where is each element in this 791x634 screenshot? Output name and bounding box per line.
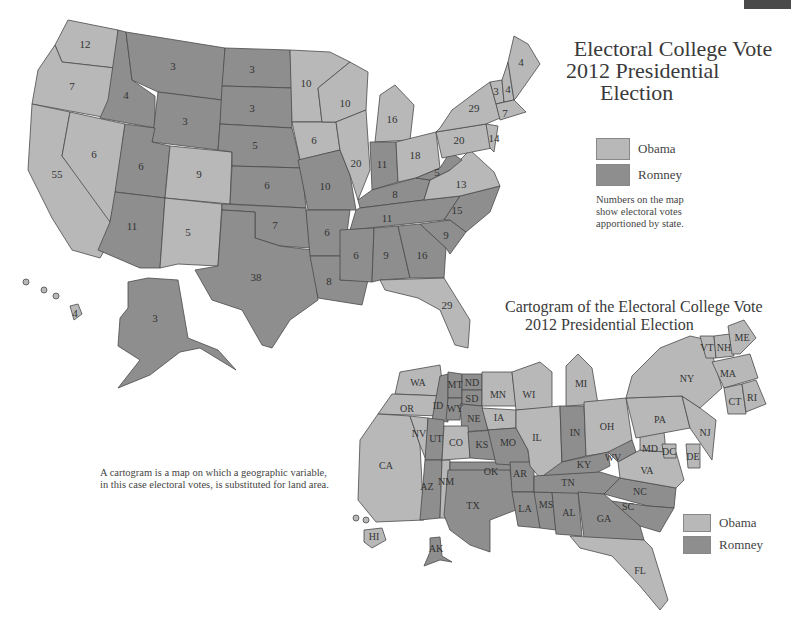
svg-text:RI: RI	[747, 392, 757, 403]
svg-text:NY: NY	[680, 373, 694, 384]
svg-text:TN: TN	[561, 477, 574, 488]
svg-text:MI: MI	[575, 378, 587, 389]
note-line: A cartogram is a map on which a geograph…	[100, 467, 340, 479]
svg-text:PA: PA	[654, 414, 667, 425]
svg-text:WA: WA	[410, 377, 426, 388]
svg-text:SC: SC	[622, 501, 635, 512]
svg-text:MN: MN	[490, 389, 506, 400]
svg-text:TX: TX	[466, 500, 480, 511]
svg-text:ME: ME	[735, 332, 750, 343]
legend-label: Romney	[719, 537, 763, 553]
svg-text:ID: ID	[433, 400, 444, 411]
svg-text:AZ: AZ	[420, 481, 433, 492]
svg-text:LA: LA	[518, 503, 532, 514]
svg-text:WV: WV	[605, 452, 622, 463]
svg-text:MA: MA	[720, 368, 737, 379]
svg-text:IL: IL	[532, 432, 541, 443]
note-line: in this case electoral votes, is substit…	[100, 479, 340, 491]
svg-text:NH: NH	[717, 342, 731, 353]
svg-text:OK: OK	[484, 466, 499, 477]
svg-text:IA: IA	[494, 412, 505, 423]
svg-text:CO: CO	[449, 437, 463, 448]
svg-text:KY: KY	[577, 459, 591, 470]
svg-text:WI: WI	[523, 389, 536, 400]
svg-text:CA: CA	[379, 460, 394, 471]
svg-text:DC: DC	[662, 446, 676, 457]
svg-text:VA: VA	[640, 465, 654, 476]
svg-text:MD: MD	[642, 443, 658, 454]
cartogram-map: WA OR CA NV ID MT ND SD WY NE UT CO AZ N…	[0, 0, 791, 634]
svg-text:UT: UT	[429, 433, 442, 444]
legend-item-obama: Obama	[683, 512, 763, 534]
carto-wi	[512, 362, 552, 410]
svg-text:HI: HI	[369, 531, 380, 542]
romney-swatch	[683, 536, 711, 554]
legend-label: Obama	[719, 515, 757, 531]
cartogram-note: A cartogram is a map on which a geograph…	[100, 467, 340, 491]
svg-text:MT: MT	[448, 379, 463, 390]
carto-tx	[444, 470, 516, 552]
svg-text:NM: NM	[438, 476, 454, 487]
svg-text:AL: AL	[562, 507, 575, 518]
svg-text:IN: IN	[570, 427, 581, 438]
svg-text:AK: AK	[429, 543, 444, 554]
svg-text:NV: NV	[412, 428, 427, 439]
svg-text:VT: VT	[700, 342, 713, 353]
svg-text:OH: OH	[600, 421, 614, 432]
svg-text:DE: DE	[686, 451, 699, 462]
svg-text:NC: NC	[633, 486, 647, 497]
obama-swatch	[683, 514, 711, 532]
legend-item-romney: Romney	[683, 534, 763, 556]
svg-text:WY: WY	[447, 403, 464, 414]
svg-text:SD: SD	[466, 393, 479, 404]
svg-text:KS: KS	[476, 439, 489, 450]
cartogram-legend: Obama Romney	[683, 512, 763, 556]
svg-text:NE: NE	[467, 413, 480, 424]
carto-fl	[570, 536, 668, 610]
svg-text:MS: MS	[539, 499, 553, 510]
svg-text:ND: ND	[465, 377, 479, 388]
svg-text:FL: FL	[634, 565, 646, 576]
svg-text:MO: MO	[500, 437, 516, 448]
svg-text:GA: GA	[597, 513, 612, 524]
svg-text:CT: CT	[729, 396, 742, 407]
svg-text:AR: AR	[513, 468, 527, 479]
svg-text:NJ: NJ	[699, 427, 710, 438]
svg-text:OR: OR	[400, 403, 414, 414]
